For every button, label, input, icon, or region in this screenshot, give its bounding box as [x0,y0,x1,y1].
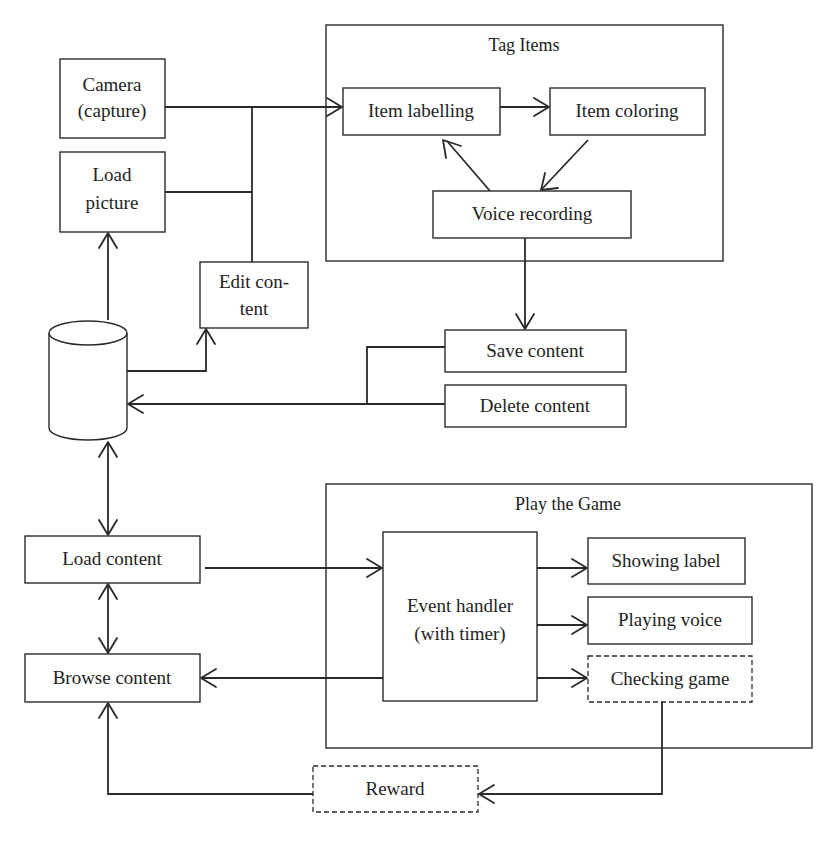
node-showing-label: Showing label [588,538,745,584]
node-browse-content: Browse content [25,654,200,702]
item-labelling-label: Item labelling [368,100,475,121]
tag-items-title: Tag Items [488,35,559,55]
node-load-picture: Load picture [60,152,165,232]
node-item-labelling: Item labelling [343,88,500,135]
item-coloring-label: Item coloring [576,100,679,121]
camera-label-line2: (capture) [78,100,147,122]
node-load-content: Load content [25,536,200,583]
edit-content-label-line1: Edit con- [219,271,289,292]
reward-label: Reward [365,778,425,799]
node-edit-content: Edit con- tent [200,262,308,328]
showing-label-label: Showing label [611,550,720,571]
delete-content-label: Delete content [480,395,591,416]
voice-recording-label: Voice recording [472,203,593,224]
database-cylinder-icon [49,321,127,440]
node-reward: Reward [313,766,478,812]
node-voice-recording: Voice recording [433,191,631,238]
load-content-label: Load content [62,548,162,569]
load-picture-label-line1: Load [92,164,132,185]
edit-content-label-line2: tent [240,298,269,319]
node-checking-game: Checking game [588,656,752,702]
event-handler-label-line1: Event handler [407,595,514,616]
node-playing-voice: Playing voice [588,597,752,644]
event-handler-label-line2: (with timer) [414,623,505,645]
flow-diagram: Tag Items Play the Game [0,0,839,846]
node-item-coloring: Item coloring [550,88,705,135]
save-content-label: Save content [486,340,584,361]
browse-content-label: Browse content [53,667,172,688]
checking-game-label: Checking game [611,668,730,689]
node-delete-content: Delete content [445,385,626,427]
play-game-title: Play the Game [515,494,621,514]
camera-label-line1: Camera [82,74,142,95]
playing-voice-label: Playing voice [618,609,722,630]
node-event-handler: Event handler (with timer) [383,532,537,701]
node-save-content: Save content [445,330,626,372]
node-camera: Camera (capture) [60,59,165,138]
load-picture-label-line2: picture [86,192,139,213]
